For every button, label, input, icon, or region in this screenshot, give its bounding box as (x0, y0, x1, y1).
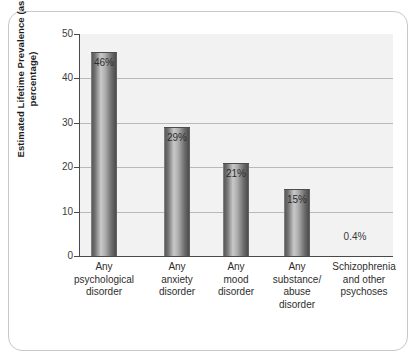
bar-any-substance-abuse-disorder[interactable]: 15% (284, 189, 310, 256)
x-label-line: and other (320, 274, 408, 287)
y-axis-ticks: 50 40 30 20 10 0 (39, 12, 73, 350)
x-label-line: disorder (65, 286, 143, 299)
figure-card: Estimated Lifetime Prevalence (as percen… (8, 11, 408, 351)
x-axis-line (79, 256, 393, 257)
bar-any-anxiety-disorder[interactable]: 29% (164, 127, 190, 256)
gridline-40 (80, 78, 393, 79)
bar-value-label: 21% (217, 168, 255, 179)
bar-any-psychological-disorder[interactable]: 46% (91, 52, 117, 256)
y-axis-title: Estimated Lifetime Prevalence (as percen… (15, 0, 39, 159)
x-label-line: Any (65, 261, 143, 274)
x-label-any-psychological-disorder: Any psychological disorder (65, 261, 143, 299)
x-axis-labels: Any psychological disorder Any anxiety d… (80, 261, 393, 341)
bar-value-label: 15% (278, 194, 316, 205)
bar-value-label: 46% (85, 57, 123, 68)
y-tick-label-50: 50 (47, 29, 73, 39)
x-label-line: psychoses (320, 286, 408, 299)
y-tick-label-10: 10 (47, 207, 73, 217)
x-label-line: Schizophrenia (320, 261, 408, 274)
gridline-30 (80, 123, 393, 124)
y-tick-label-40: 40 (47, 73, 73, 83)
bar-value-label: 29% (158, 132, 196, 143)
bar-any-mood-disorder[interactable]: 21% (223, 163, 249, 256)
x-label-line: disorder (258, 299, 336, 312)
bar-value-label-schizophrenia: 0.4% (335, 231, 375, 242)
plot-area: 46% 29% 21% 15% 0.4% (80, 34, 393, 256)
y-tick-label-0: 0 (47, 251, 73, 261)
y-tick-label-20: 20 (47, 162, 73, 172)
y-axis-title-line-1: Estimated Lifetime Prevalence (15, 17, 26, 157)
x-label-schizophrenia-and-other-psychoses: Schizophrenia and other psychoses (320, 261, 408, 299)
y-tick-label-30: 30 (47, 118, 73, 128)
x-label-line: psychological (65, 274, 143, 287)
